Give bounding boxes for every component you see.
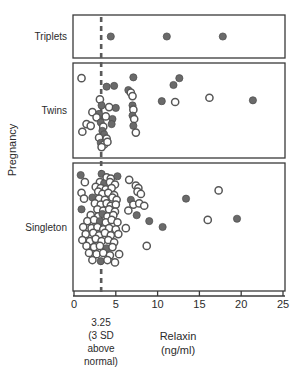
data-point-filled-circle [112, 104, 119, 111]
data-point-open-circle [172, 98, 179, 105]
data-point-filled-circle [146, 218, 153, 225]
data-point-filled-circle [249, 97, 256, 104]
data-point-open-circle [206, 94, 213, 101]
data-point-open-circle [89, 256, 96, 263]
data-point-filled-circle [103, 83, 110, 90]
data-point-open-circle [87, 122, 94, 129]
data-point-filled-circle [78, 206, 85, 213]
data-point-open-circle [131, 115, 138, 122]
x-axis-units: (ng/ml) [161, 344, 195, 356]
data-point-open-circle [109, 243, 116, 250]
data-point-filled-circle [111, 82, 118, 89]
data-point-open-circle [78, 75, 85, 82]
data-point-open-circle [112, 201, 119, 208]
data-point-open-circle [215, 187, 222, 194]
data-point-filled-circle [163, 33, 170, 40]
data-point-open-circle [106, 104, 113, 111]
data-point-filled-circle [176, 75, 183, 82]
data-point-open-circle [104, 256, 111, 263]
x-tick-label-10: 10 [151, 298, 163, 310]
data-point-filled-circle [170, 81, 177, 88]
data-point-open-circle [114, 219, 121, 226]
data-point-open-circle [98, 143, 105, 150]
data-point-open-circle [83, 242, 90, 249]
x-axis-group: 0510152025 [71, 291, 289, 310]
data-point-filled-circle [114, 173, 121, 180]
data-point-open-circle [122, 225, 129, 232]
points-twins [78, 74, 257, 151]
data-point-open-circle [141, 202, 148, 209]
x-tick-label-0: 0 [71, 298, 77, 310]
data-point-open-circle [129, 92, 136, 99]
data-point-open-circle [115, 230, 122, 237]
data-point-filled-circle [108, 121, 115, 128]
data-point-filled-circle [158, 98, 165, 105]
data-points-group [77, 33, 256, 266]
panel-label-triplets: Triplets [35, 31, 67, 42]
data-point-open-circle [80, 195, 87, 202]
points-triplets [107, 33, 226, 40]
y-axis-title: Pregnancy [6, 123, 18, 176]
data-point-open-circle [102, 113, 109, 120]
data-point-filled-circle [98, 102, 105, 109]
relaxin-pregnancy-scatter-figure: 0510152025 Pregnancy Relaxin (ng/ml) 3.2… [0, 0, 303, 378]
data-point-open-circle [85, 249, 92, 256]
threshold-value-label: 3.25 [91, 317, 111, 328]
panel-box-triplets [73, 15, 285, 58]
data-point-open-circle [80, 223, 87, 230]
data-point-open-circle [81, 179, 88, 186]
chart-canvas: 0510152025 Pregnancy Relaxin (ng/ml) 3.2… [0, 0, 303, 378]
threshold-note-line3: normal) [84, 356, 118, 367]
points-singleton [77, 170, 241, 266]
data-point-open-circle [96, 242, 103, 249]
data-point-open-circle [143, 242, 150, 249]
x-axis-title: Relaxin [160, 330, 197, 342]
data-point-open-circle [125, 207, 132, 214]
data-point-filled-circle [133, 212, 140, 219]
data-point-open-circle [111, 259, 118, 266]
x-tick-label-25: 25 [277, 298, 289, 310]
data-point-filled-circle [182, 195, 189, 202]
data-point-open-circle [204, 216, 211, 223]
data-point-filled-circle [219, 33, 226, 40]
data-point-filled-circle [130, 74, 137, 81]
x-tick-label-5: 5 [113, 298, 119, 310]
x-tick-label-15: 15 [193, 298, 205, 310]
data-point-open-circle [126, 176, 133, 183]
data-point-filled-circle [107, 33, 114, 40]
data-point-open-circle [79, 128, 86, 135]
x-tick-label-20: 20 [235, 298, 247, 310]
threshold-note-line1: (3 SD [88, 330, 114, 341]
threshold-note-line2: above [87, 343, 115, 354]
panel-label-twins: Twins [41, 105, 67, 116]
data-point-open-circle [137, 190, 144, 197]
data-point-filled-circle [233, 215, 240, 222]
data-point-filled-circle [77, 171, 84, 178]
data-point-filled-circle [159, 223, 166, 230]
data-point-open-circle [132, 129, 139, 136]
panel-label-singleton: Singleton [25, 222, 67, 233]
data-point-open-circle [116, 251, 123, 258]
